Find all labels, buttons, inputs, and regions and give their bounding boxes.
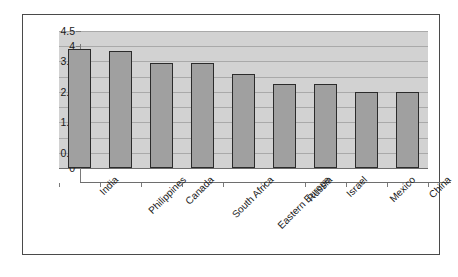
bar xyxy=(396,92,419,168)
chart-figure: 4.543.532.521.510.50 xyxy=(22,14,440,255)
bar xyxy=(191,63,214,168)
bar xyxy=(68,49,91,168)
bar xyxy=(355,92,378,168)
y-axis-tick xyxy=(76,31,81,32)
bar xyxy=(314,84,337,168)
gridline xyxy=(59,46,428,47)
bar xyxy=(109,51,132,168)
gridline xyxy=(59,31,428,32)
x-axis-tick xyxy=(305,183,306,187)
bar xyxy=(150,63,173,168)
x-axis-tick xyxy=(223,183,224,187)
x-axis-tick xyxy=(141,183,142,187)
y-axis-tick xyxy=(76,46,81,47)
y-axis-tick-label: 4.5 xyxy=(41,26,75,36)
y-axis-tick xyxy=(76,168,81,169)
bar xyxy=(232,74,255,168)
x-axis-tick xyxy=(59,183,60,187)
x-axis-tick xyxy=(346,183,347,187)
x-axis-tick xyxy=(428,183,429,187)
gridline xyxy=(59,168,428,169)
bar xyxy=(273,84,296,168)
x-axis-tick xyxy=(387,183,388,187)
